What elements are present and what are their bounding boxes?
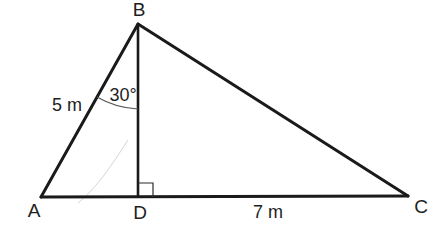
triangle-diagram: B A D C 5 m 7 m 30°	[0, 0, 441, 228]
vertex-label-a: A	[28, 200, 41, 221]
right-angle-marker	[138, 183, 153, 197]
segment-ac	[41, 196, 408, 197]
length-label-dc: 7 m	[253, 202, 283, 222]
vertex-label-b: B	[133, 0, 146, 20]
segment-bc	[138, 24, 408, 196]
angle-label-abd: 30°	[109, 85, 136, 105]
pencil-smudge	[78, 140, 128, 203]
vertex-label-d: D	[133, 202, 147, 223]
length-label-ab: 5 m	[52, 95, 82, 115]
vertex-label-c: C	[414, 196, 428, 217]
